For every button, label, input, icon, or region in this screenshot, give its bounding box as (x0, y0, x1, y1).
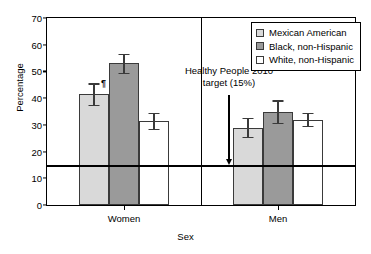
y-tick-mark-40 (43, 98, 47, 99)
legend-label-white-non-hispanic: White, non-Hispanic (269, 54, 354, 65)
bar-chart: Percentage Sex 010203040506070WomenMen¶H… (0, 0, 371, 254)
target-annotation-arrow (228, 95, 229, 160)
y-tick-mark-60 (43, 44, 47, 45)
error-cap-men-1-high (273, 100, 284, 101)
error-bar-women-0 (93, 83, 94, 104)
legend-label-mexican-american: Mexican American (269, 27, 347, 38)
error-bar-men-0 (247, 118, 248, 137)
error-cap-men-2-high (303, 113, 314, 114)
x-group-label-men: Men (269, 213, 287, 224)
error-cap-women-2-low (149, 129, 160, 130)
legend-label-black-non-hispanic: Black, non-Hispanic (269, 41, 353, 52)
legend-item-white-non-hispanic: White, non-Hispanic (256, 53, 354, 67)
x-group-label-women: Women (108, 213, 141, 224)
y-tick-mark-50 (43, 71, 47, 72)
x-tick-mark-men (278, 205, 279, 210)
y-axis-title: Percentage (14, 43, 25, 133)
y-tick-mark-30 (43, 124, 47, 125)
y-tick-mark-0 (43, 204, 47, 205)
legend: Mexican American Black, non-Hispanic Whi… (251, 22, 361, 71)
group-separator (201, 18, 202, 205)
legend-item-mexican-american: Mexican American (256, 26, 354, 40)
x-axis-title: Sex (0, 231, 371, 242)
y-tick-mark-10 (43, 178, 47, 179)
bar-women-2 (139, 121, 169, 205)
legend-swatch-black-non-hispanic (256, 42, 264, 50)
error-bar-men-1 (277, 100, 278, 122)
legend-item-black-non-hispanic: Black, non-Hispanic (256, 40, 354, 54)
error-bar-men-2 (307, 113, 308, 126)
bar-men-2 (293, 120, 323, 205)
target-annotation-arrowhead (226, 159, 232, 165)
error-cap-men-1-low (273, 123, 284, 124)
bar-men-1 (263, 112, 293, 206)
target-annotation-line2: target (15%) (169, 77, 289, 89)
error-cap-men-0-low (243, 137, 254, 138)
error-cap-women-0-high (89, 83, 100, 84)
error-cap-women-2-high (149, 113, 160, 114)
error-cap-men-0-high (243, 118, 254, 119)
error-bar-women-2 (153, 113, 154, 129)
error-cap-women-0-low (89, 105, 100, 106)
legend-swatch-mexican-american (256, 29, 264, 37)
bar-women-1 (109, 63, 139, 205)
x-tick-mark-women (124, 205, 125, 210)
y-tick-mark-70 (43, 17, 47, 18)
error-bar-women-1 (123, 54, 124, 73)
error-cap-women-1-low (119, 73, 130, 74)
footnote-marker: ¶ (101, 79, 106, 88)
bar-women-0 (79, 94, 109, 205)
error-cap-men-2-low (303, 126, 314, 127)
legend-swatch-white-non-hispanic (256, 56, 264, 64)
error-cap-women-1-high (119, 54, 130, 55)
y-tick-mark-20 (43, 151, 47, 152)
